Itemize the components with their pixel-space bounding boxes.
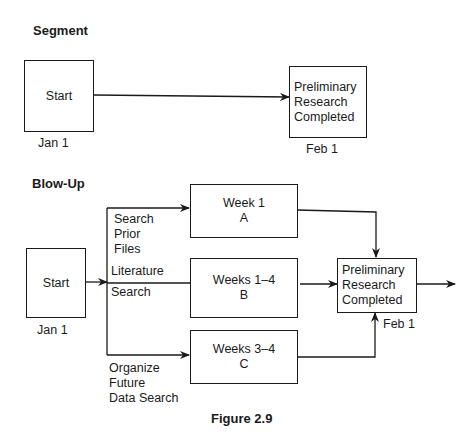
segment-end-label: Preliminary Research Completed	[294, 80, 357, 125]
blowup-start-label: Start	[43, 276, 69, 291]
task-box-a: Week 1 A	[190, 184, 298, 238]
segment-end-box: Preliminary Research Completed	[289, 66, 367, 138]
task-box-b: Weeks 1–4 B	[190, 258, 298, 318]
task-b-duration: Weeks 1–4	[213, 273, 275, 288]
path-label-organize-future-data-search: Organize Future Data Search	[109, 361, 178, 406]
blowup-end-label: Preliminary Research Completed	[342, 263, 405, 308]
task-a-id: A	[240, 211, 248, 226]
blowup-start-date: Jan 1	[37, 323, 68, 338]
task-c-duration: Weeks 3–4	[213, 342, 275, 357]
segment-start-box: Start	[24, 60, 94, 132]
task-b-id: B	[240, 288, 248, 303]
path-label-search-prior-files: Search Prior Files	[114, 212, 154, 257]
segment-start-date: Jan 1	[38, 136, 69, 151]
task-a-duration: Week 1	[223, 196, 265, 211]
blowup-title: Blow-Up	[32, 176, 85, 191]
blowup-start-box: Start	[26, 248, 86, 318]
path-label-search: Search	[111, 285, 151, 300]
segment-end-date: Feb 1	[306, 142, 338, 157]
blowup-end-box: Preliminary Research Completed	[337, 258, 417, 313]
blowup-end-date: Feb 1	[383, 317, 415, 332]
task-c-id: C	[239, 357, 248, 372]
path-label-literature: Literature	[111, 264, 164, 279]
segment-start-label: Start	[46, 89, 72, 104]
segment-title: Segment	[33, 23, 88, 38]
task-box-c: Weeks 3–4 C	[190, 330, 298, 384]
figure-caption: Figure 2.9	[211, 411, 272, 426]
